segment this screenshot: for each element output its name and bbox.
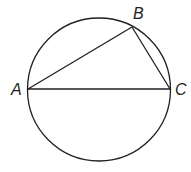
label-a: A <box>10 81 22 98</box>
segment-bc <box>132 27 170 89</box>
circle-diagram: A B C <box>0 0 191 172</box>
segment-ab <box>28 27 132 89</box>
label-c: C <box>175 81 187 98</box>
label-b: B <box>133 5 144 22</box>
